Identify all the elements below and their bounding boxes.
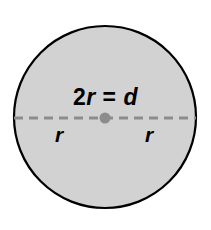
diameter-equation-label: 2r = d [0,86,211,109]
radius-label-left: r [55,124,63,145]
coefficient-two: 2 [73,84,86,110]
radius-label-right: r [145,124,153,145]
radius-symbol-in-equation: r [86,84,95,110]
circle-diagram-svg [0,0,211,230]
diameter-symbol-in-equation: d [123,84,138,110]
circle-diagram-canvas: 2r = d r r [0,0,211,230]
center-point-dot [100,113,111,124]
equals-sign: = [96,84,124,110]
